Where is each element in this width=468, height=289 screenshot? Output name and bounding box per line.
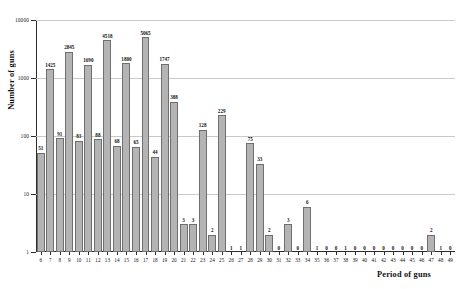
bar [170, 102, 178, 252]
bar-value-label: 0 [297, 245, 300, 251]
x-axis-tick-label: 30 [267, 257, 272, 263]
bar [303, 207, 311, 252]
x-axis-tick [60, 252, 61, 255]
x-axis-tick-label: 9 [68, 257, 71, 263]
bar-group: 043 [388, 20, 398, 252]
bar-value-label: 1690 [83, 57, 93, 63]
bar-value-label: 128 [199, 122, 207, 128]
y-axis-tick-label: 1000 [18, 75, 29, 81]
y-axis-tick-label: 1 [26, 249, 29, 255]
bar-value-label: 1 [439, 245, 442, 251]
x-axis-tick-label: 44 [400, 257, 405, 263]
x-axis-tick-label: 18 [152, 257, 157, 263]
bar-value-label: 0 [411, 245, 414, 251]
bar-group: 169011 [84, 20, 94, 252]
x-axis-tick [441, 252, 442, 255]
bar [189, 224, 197, 252]
bar-group: 332 [284, 20, 294, 252]
x-axis-tick-label: 19 [162, 257, 167, 263]
bar [199, 130, 207, 252]
x-axis-tick [279, 252, 280, 255]
x-axis-tick [98, 252, 99, 255]
x-axis-tick [288, 252, 289, 255]
x-axis-tick-label: 22 [191, 257, 196, 263]
x-axis-tick [222, 252, 223, 255]
bar-value-label: 1800 [121, 56, 131, 62]
bar-group: 126 [226, 20, 236, 252]
bar-value-label: 0 [278, 245, 281, 251]
bar-value-label: 0 [420, 245, 423, 251]
bar-group: 6516 [131, 20, 141, 252]
x-axis-tick [117, 252, 118, 255]
bar-group: 180015 [122, 20, 132, 252]
bar-group: 7528 [246, 20, 256, 252]
x-axis-tick-label: 23 [200, 257, 205, 263]
x-axis-tick-label: 41 [371, 257, 376, 263]
bar-group: 506517 [141, 20, 151, 252]
x-axis-tick-label: 29 [257, 257, 262, 263]
x-axis-tick-label: 6 [39, 257, 42, 263]
x-axis-tick [165, 252, 166, 255]
bar [246, 143, 254, 252]
bar [427, 235, 435, 252]
bar-value-label: 229 [218, 108, 226, 114]
bar-group: 22925 [217, 20, 227, 252]
x-axis-tick [146, 252, 147, 255]
x-axis-tick [250, 252, 251, 255]
x-axis-tick [241, 252, 242, 255]
bar [132, 147, 140, 252]
x-axis-tick-label: 20 [171, 257, 176, 263]
x-axis-tick-label: 27 [238, 257, 243, 263]
x-axis-tick-label: 48 [438, 257, 443, 263]
bar [56, 138, 64, 252]
bar-group: 321 [179, 20, 189, 252]
bar [284, 224, 292, 252]
bar-value-label: 1 [239, 245, 242, 251]
x-axis-tick [431, 252, 432, 255]
bar-value-label: 1 [344, 245, 347, 251]
x-axis-tick [365, 252, 366, 255]
bar-value-label: 0 [354, 245, 357, 251]
x-axis-tick-label: 49 [448, 257, 453, 263]
x-axis-tick [260, 252, 261, 255]
bar-group: 224 [207, 20, 217, 252]
bar-group: 174719 [160, 20, 170, 252]
x-axis-tick [231, 252, 232, 255]
bar-group: 918 [55, 20, 65, 252]
bar-group: 28459 [65, 20, 75, 252]
x-axis-tick-label: 37 [333, 257, 338, 263]
x-axis-tick [184, 252, 185, 255]
x-axis-tick-label: 11 [86, 257, 91, 263]
x-axis-tick [126, 252, 127, 255]
bar-value-label: 0 [392, 245, 395, 251]
x-axis-tick-label: 21 [181, 257, 186, 263]
bar-value-label: 2 [211, 227, 214, 233]
x-axis-tick [393, 252, 394, 255]
bar-group: 12823 [198, 20, 208, 252]
x-axis-tick [326, 252, 327, 255]
x-axis-tick [212, 252, 213, 255]
x-axis-tick-label: 33 [295, 257, 300, 263]
bar-value-label: 0 [382, 245, 385, 251]
x-axis-tick-label: 47 [429, 257, 434, 263]
bar-value-label: 91 [57, 131, 62, 137]
x-axis-tick [450, 252, 451, 255]
bar-value-label: 33 [257, 156, 262, 162]
bar-group: 039 [350, 20, 360, 252]
bar-group: 148 [436, 20, 446, 252]
bar-value-label: 0 [363, 245, 366, 251]
bar-value-label: 388 [170, 94, 178, 100]
bar [103, 40, 111, 252]
bar-value-label: 83 [76, 133, 81, 139]
bar-value-label: 5065 [140, 30, 150, 36]
x-axis-tick-label: 24 [210, 257, 215, 263]
x-axis-tick [174, 252, 175, 255]
bar [84, 65, 92, 252]
x-axis-tick [269, 252, 270, 255]
x-axis-tick-label: 43 [390, 257, 395, 263]
x-axis-tick-label: 16 [133, 257, 138, 263]
bar-value-label: 1425 [45, 62, 55, 68]
bar-value-label: 1 [230, 245, 233, 251]
bar-group: 3329 [255, 20, 265, 252]
bar-value-label: 68 [114, 138, 119, 144]
